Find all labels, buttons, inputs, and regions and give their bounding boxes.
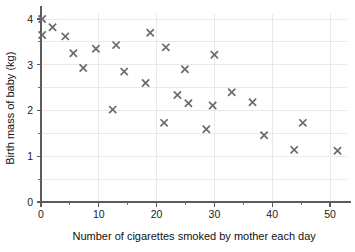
data-point <box>261 132 268 139</box>
x-tick-label: 10 <box>93 208 105 220</box>
data-point <box>185 100 192 107</box>
scatter-chart: 01020304050 01234 Number of cigarettes s… <box>0 0 355 252</box>
data-point <box>162 44 169 51</box>
data-point <box>113 41 120 48</box>
x-tick-label: 30 <box>209 208 221 220</box>
data-point <box>49 24 56 31</box>
data-point <box>62 33 69 40</box>
data-point <box>109 106 116 113</box>
axis-lines <box>41 6 351 202</box>
x-tick-label: 40 <box>266 208 278 220</box>
data-point <box>203 126 210 133</box>
plot-area: 01020304050 01234 Number of cigarettes s… <box>0 0 355 252</box>
x-tick-label: 20 <box>151 208 163 220</box>
y-tick-label: 1 <box>27 150 33 162</box>
y-tick-label: 4 <box>27 13 33 25</box>
y-gridlines <box>41 19 347 179</box>
x-axis-title: Number of cigarettes smoked by mother ea… <box>72 230 316 242</box>
data-point <box>249 99 256 106</box>
x-axis-tick-labels: 01020304050 <box>38 208 336 220</box>
data-point <box>334 147 341 154</box>
data-point <box>161 119 168 126</box>
data-point <box>181 66 188 73</box>
data-point <box>121 68 128 75</box>
y-tick-label: 3 <box>27 59 33 71</box>
data-point <box>80 64 87 71</box>
y-tick-label: 2 <box>27 104 33 116</box>
data-point <box>209 102 216 109</box>
data-point <box>39 31 46 38</box>
x-tick-label: 0 <box>38 208 44 220</box>
x-tick-label: 50 <box>324 208 336 220</box>
data-point <box>70 50 77 57</box>
data-point <box>142 79 149 86</box>
y-axis-title: Birth mass of baby (kg) <box>4 52 16 165</box>
y-axis-tick-labels: 01234 <box>27 13 33 208</box>
data-point <box>147 29 154 36</box>
data-point <box>228 89 235 96</box>
data-point <box>299 119 306 126</box>
data-point <box>174 91 181 98</box>
data-point <box>291 146 298 153</box>
y-tick-label: 0 <box>27 196 33 208</box>
